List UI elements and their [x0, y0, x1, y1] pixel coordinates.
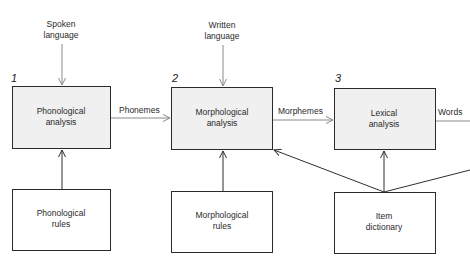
input-written-language-line1: Written	[209, 20, 236, 30]
arrow-item-dictionary-to-morphological	[274, 150, 384, 192]
input-spoken-language-line2: language	[44, 30, 79, 40]
morphological-analysis-line1: Morphological	[196, 107, 249, 117]
item-dictionary-line2: dictionary	[366, 222, 403, 232]
language-analysis-diagram: Spoken language Written language 1 2 3 P…	[0, 0, 470, 261]
input-written-language-line2: language	[205, 31, 240, 41]
line-item-dictionary-to-right	[384, 170, 470, 192]
stage-number-2: 2	[171, 72, 178, 84]
morphological-analysis-line2: analysis	[207, 118, 238, 128]
item-dictionary-line1: Item	[376, 211, 393, 221]
input-spoken-language-line1: Spoken	[47, 19, 76, 29]
lexical-analysis-line1: Lexical	[371, 108, 398, 118]
lexical-analysis-line2: analysis	[369, 119, 400, 129]
flow-label-words: Words	[438, 107, 462, 117]
flow-label-morphemes: Morphemes	[278, 106, 323, 116]
phonological-analysis-line2: analysis	[46, 117, 77, 127]
morphological-rules-line1: Morphological	[196, 210, 249, 220]
stage-number-1: 1	[11, 72, 17, 84]
morphological-rules-line2: rules	[213, 221, 231, 231]
stage-number-3: 3	[335, 72, 342, 84]
phonological-analysis-line1: Phonological	[37, 106, 86, 116]
phonological-rules-line2: rules	[52, 219, 70, 229]
phonological-rules-line1: Phonological	[37, 208, 86, 218]
flow-label-phonemes: Phonemes	[119, 105, 160, 115]
